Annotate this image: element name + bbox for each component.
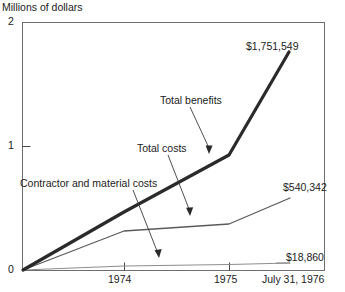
value-label-total-benefits: $1,751,549 bbox=[246, 41, 299, 52]
x-tick-label-1975: 1975 bbox=[214, 274, 237, 285]
series-line-total-benefits bbox=[23, 52, 289, 270]
y-tick-label-2: 2 bbox=[8, 16, 14, 27]
series-line-total-costs bbox=[23, 198, 290, 270]
series-label-total-benefits: Total benefits bbox=[160, 95, 222, 106]
value-label-contractor-and-material-costs: $18,860 bbox=[286, 252, 324, 263]
series-label-contractor-and-material-costs: Contractor and material costs bbox=[20, 178, 157, 189]
y-tick-label-0: 0 bbox=[8, 264, 14, 275]
series-label-total-costs: Total costs bbox=[137, 143, 187, 154]
y-tick-label-1: 1 bbox=[8, 140, 14, 151]
leader-total-benefits bbox=[190, 107, 213, 154]
chart-container: Millions of dollars 2 1 0 1974 1975 July… bbox=[0, 0, 345, 292]
x-tick-label-july-31-1976: July 31, 1976 bbox=[262, 274, 324, 285]
y-axis-title: Millions of dollars bbox=[2, 2, 83, 13]
value-label-total-costs: $540,342 bbox=[283, 182, 327, 193]
x-tick-label-1974: 1974 bbox=[108, 274, 131, 285]
series-line-contractor-and-material-costs bbox=[23, 263, 290, 270]
